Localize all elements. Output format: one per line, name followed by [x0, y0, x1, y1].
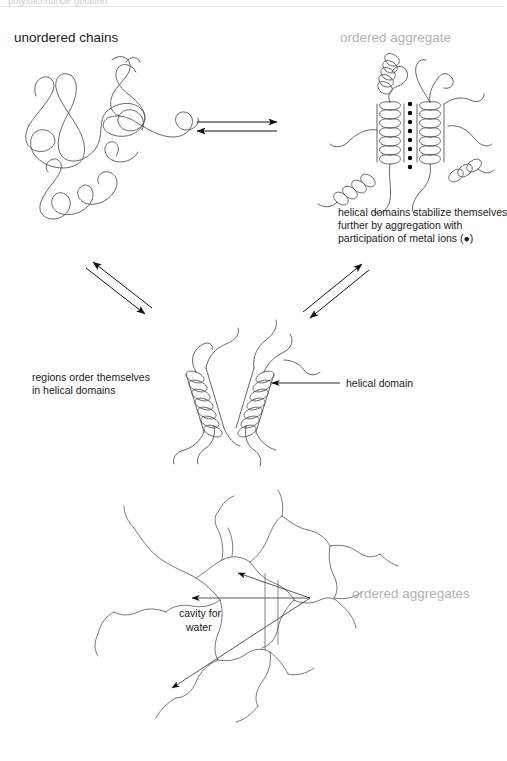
ion-dot: [408, 129, 412, 133]
caption-regions-order-line2: in helical domains: [32, 384, 115, 397]
caption-metal-ions-line1: helical domains stabilize themselves: [338, 206, 507, 219]
unordered-chains-group: [26, 57, 199, 168]
arrow-downleft: [310, 270, 369, 318]
ion-dot: [408, 120, 412, 124]
equilibrium-arrows-horizontal: [197, 122, 277, 131]
ion-dot: [408, 138, 412, 142]
label-cavity-for-water-line1: cavity for: [179, 607, 221, 620]
arrow-to-top-junction: [238, 573, 310, 598]
aggregate-helix-bottomright-diagonal: [449, 159, 482, 182]
aggregate-helix-topleft-diagonal: [378, 54, 400, 95]
label-ordered-aggregates: ordered aggregates: [352, 587, 470, 600]
helical-domain-group: [173, 320, 320, 466]
arrow-upright: [303, 264, 362, 312]
label-cavity-for-water-line2: water: [186, 621, 212, 634]
ordered-aggregate-group: [318, 54, 494, 214]
helix-right-arm: [236, 368, 274, 437]
unordered-chain-bottom-left: [40, 159, 117, 219]
ion-dot: [408, 102, 412, 106]
aggregate-helix-right-vertical: [417, 102, 444, 164]
aggregate-helix-bottomleft-diagonal: [334, 174, 376, 205]
caption-metal-ions-line3: participation of metal ions (●): [338, 232, 473, 245]
aggregate-tails: [318, 60, 494, 214]
arrow-upleft: [93, 262, 152, 308]
label-unordered-chains: unordered chains: [14, 31, 118, 44]
helix-left-arm: [186, 368, 224, 437]
arrow-downright: [86, 268, 145, 314]
aggregate-helix-left-vertical: [377, 102, 404, 164]
unordered-chain-bottom-right: [105, 142, 138, 162]
caption-regions-order-line1: regions order themselves: [32, 371, 150, 384]
label-ordered-aggregate: ordered aggregate: [340, 31, 451, 44]
network-group: [95, 490, 398, 722]
equilibrium-arrows-left-diagonal: [86, 262, 152, 314]
label-helical-domain: helical domain: [346, 377, 413, 390]
caption-metal-ions-line2: further by aggregation with: [338, 219, 462, 232]
ion-dot: [408, 147, 412, 151]
ion-dot: [408, 156, 412, 160]
equilibrium-arrows-right-diagonal: [303, 264, 369, 318]
ion-dot: [408, 111, 412, 115]
ion-dot: [408, 165, 412, 169]
metal-ion-dots: [408, 102, 412, 169]
